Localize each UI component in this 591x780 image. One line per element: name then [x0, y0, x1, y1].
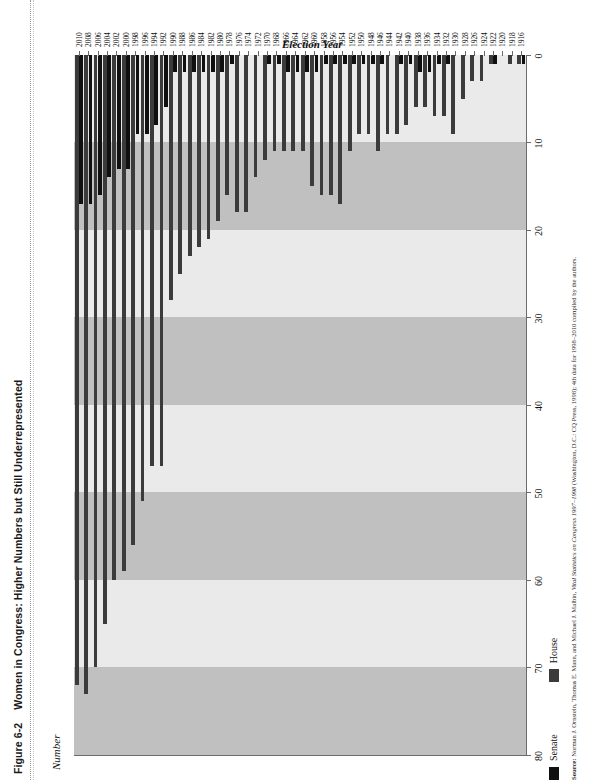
bar-house[interactable]: [376, 55, 380, 151]
bar-senate[interactable]: [154, 55, 158, 125]
y-axis-tick: [135, 51, 136, 56]
bar-senate[interactable]: [324, 55, 328, 64]
bar-senate[interactable]: [409, 55, 413, 64]
bar-senate[interactable]: [145, 55, 149, 134]
bar-house[interactable]: [150, 55, 154, 466]
bar-house[interactable]: [367, 55, 371, 134]
bar-house[interactable]: [423, 55, 427, 108]
bar-house[interactable]: [404, 55, 408, 125]
bar-senate[interactable]: [446, 55, 450, 64]
bar-row: [319, 55, 328, 755]
bar-senate[interactable]: [286, 55, 290, 73]
bar-senate[interactable]: [418, 55, 422, 73]
bar-senate[interactable]: [98, 55, 102, 195]
bar-house[interactable]: [282, 55, 286, 151]
bar-senate[interactable]: [89, 55, 93, 204]
bar-senate[interactable]: [192, 55, 196, 73]
title-dotted-rule-secondary: [33, 0, 34, 780]
bar-senate[interactable]: [343, 55, 347, 64]
bar-senate[interactable]: [428, 55, 432, 73]
bar-house[interactable]: [480, 55, 484, 81]
bar-senate[interactable]: [230, 55, 234, 64]
bar-house[interactable]: [291, 55, 295, 151]
bar-senate[interactable]: [277, 55, 281, 64]
bar-house[interactable]: [254, 55, 258, 178]
bar-row: [140, 55, 149, 755]
bar-house[interactable]: [84, 55, 88, 694]
bar-house[interactable]: [386, 55, 390, 134]
bar-house[interactable]: [131, 55, 135, 545]
bar-row: [262, 55, 271, 755]
bar-senate[interactable]: [352, 55, 356, 64]
bar-house[interactable]: [169, 55, 173, 300]
bar-house[interactable]: [517, 55, 521, 64]
bar-senate[interactable]: [371, 55, 375, 64]
bar-senate[interactable]: [362, 55, 366, 64]
bar-senate[interactable]: [305, 55, 309, 73]
bar-house[interactable]: [244, 55, 248, 213]
bar-house[interactable]: [329, 55, 333, 195]
bar-senate[interactable]: [333, 55, 337, 64]
bar-house[interactable]: [141, 55, 145, 501]
legend-item-house[interactable]: House: [548, 638, 559, 683]
bar-house[interactable]: [273, 55, 277, 151]
bar-senate[interactable]: [107, 55, 111, 178]
bar-senate[interactable]: [164, 55, 168, 108]
bar-senate[interactable]: [220, 55, 224, 73]
bar-senate[interactable]: [183, 55, 187, 73]
y-axis-tick: [521, 51, 522, 56]
bar-senate[interactable]: [173, 55, 177, 73]
bar-senate[interactable]: [202, 55, 206, 73]
bar-house[interactable]: [103, 55, 107, 624]
bar-house[interactable]: [508, 55, 512, 64]
bar-house[interactable]: [310, 55, 314, 186]
bar-house[interactable]: [442, 55, 446, 116]
bar-senate[interactable]: [296, 55, 300, 73]
bar-house[interactable]: [461, 55, 465, 99]
bar-house[interactable]: [320, 55, 324, 195]
bar-house[interactable]: [235, 55, 239, 213]
bar-house[interactable]: [263, 55, 267, 160]
bar-senate[interactable]: [315, 55, 319, 73]
bar-senate[interactable]: [437, 55, 441, 64]
bar-house[interactable]: [357, 55, 361, 134]
bar-house[interactable]: [216, 55, 220, 221]
bar-senate[interactable]: [136, 55, 140, 134]
x-axis-tick: [526, 230, 531, 231]
bar-senate[interactable]: [399, 55, 403, 64]
bar-house[interactable]: [94, 55, 98, 668]
bar-senate[interactable]: [117, 55, 121, 169]
y-axis-tick-label: 2008: [84, 32, 93, 47]
bar-house[interactable]: [188, 55, 192, 256]
bar-house[interactable]: [225, 55, 229, 195]
x-axis-tick: [526, 143, 531, 144]
bar-house[interactable]: [112, 55, 116, 580]
bar-house[interactable]: [348, 55, 352, 151]
bar-senate[interactable]: [126, 55, 130, 169]
legend-item-senate[interactable]: Senate: [548, 734, 559, 780]
bar-senate[interactable]: [79, 55, 83, 204]
bar-senate[interactable]: [380, 55, 384, 64]
bar-row: [272, 55, 281, 755]
bar-house[interactable]: [414, 55, 418, 108]
bar-house[interactable]: [122, 55, 126, 571]
bar-house[interactable]: [301, 55, 305, 151]
bar-house[interactable]: [160, 55, 164, 466]
bar-house[interactable]: [178, 55, 182, 274]
bar-house[interactable]: [207, 55, 211, 239]
bar-house[interactable]: [451, 55, 455, 134]
bar-house[interactable]: [197, 55, 201, 248]
bar-house[interactable]: [489, 55, 493, 64]
bar-row: [93, 55, 102, 755]
x-axis-tick: [526, 55, 531, 56]
bar-house[interactable]: [395, 55, 399, 134]
bar-senate[interactable]: [493, 55, 497, 64]
bar-house[interactable]: [470, 55, 474, 81]
bar-senate[interactable]: [522, 55, 526, 64]
bar-senate[interactable]: [211, 55, 215, 73]
bar-house[interactable]: [433, 55, 437, 116]
bar-house[interactable]: [338, 55, 342, 204]
bar-house[interactable]: [75, 55, 79, 685]
x-axis-tick-label: 50: [533, 489, 544, 499]
bar-senate[interactable]: [267, 55, 271, 64]
